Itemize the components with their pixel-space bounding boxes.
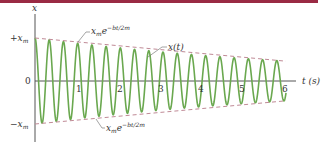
x-tick-5: 5 [239, 84, 245, 94]
lower-envelope-leader [96, 119, 105, 128]
x-tick-2: 2 [117, 84, 123, 94]
x-tick-1: 1 [76, 84, 82, 94]
upper-envelope-leader [78, 32, 90, 42]
x-tick-4: 4 [198, 84, 204, 94]
y-tick-minus-xm: −xm [10, 119, 29, 130]
damped-oscillation-chart: x +xm 0 −xm 1 2 3 4 5 6 t (s) xme−bt/2m … [0, 0, 331, 144]
x-tick-6: 6 [282, 84, 288, 94]
y-tick-zero: 0 [25, 76, 31, 86]
lower-envelope-label: xme−bt/2m [106, 121, 145, 134]
x-tick-3: 3 [158, 84, 164, 94]
upper-envelope-label: xme−bt/2m [91, 24, 130, 37]
upper-envelope-dashed [35, 38, 286, 61]
curve-label: x(t) [168, 42, 184, 52]
y-axis-label: x [32, 3, 37, 13]
x-axis-label: t (s) [302, 76, 321, 86]
y-tick-plus-xm: +xm [10, 33, 29, 44]
